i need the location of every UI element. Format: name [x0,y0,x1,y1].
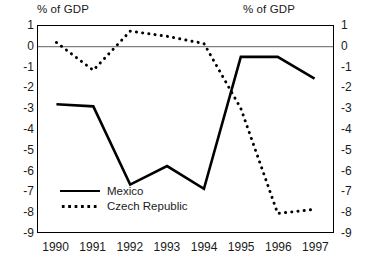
y-tick-label-right: -1 [341,61,365,73]
right-axis-unit-label: % of GDP [243,3,295,15]
y-tick-label-right: -3 [341,102,365,114]
x-tick-label: 1993 [147,240,187,254]
y-tick-label-left: -2 [10,81,34,93]
y-tick-label-right: -2 [341,81,365,93]
y-tick-label-left: -4 [10,123,34,135]
y-tick-label-right: 0 [341,40,365,52]
legend-label: Mexico [107,185,143,197]
x-tick-label: 1992 [110,240,150,254]
y-tick-label-left: 1 [10,19,34,31]
y-tick-label-left: -9 [10,227,34,239]
y-tick-label-left: -6 [10,165,34,177]
legend-item: Mexico [60,183,188,198]
series-line-mexico [56,57,314,189]
y-tick-label-left: -8 [10,206,34,218]
y-tick-label-right: -4 [341,123,365,135]
y-tick-label-right: -7 [341,185,365,197]
x-tick-label: 1997 [295,240,335,254]
x-tick-label: 1996 [258,240,298,254]
y-tick-label-right: 1 [341,19,365,31]
x-tick-label: 1995 [221,240,261,254]
left-axis-unit-label: % of GDP [37,3,89,15]
y-tick-label-right: -8 [341,206,365,218]
legend-item: Czech Republic [60,198,188,213]
legend-solid-line-icon [60,186,100,196]
y-tick-label-right: -9 [341,227,365,239]
y-tick-label-left: -5 [10,144,34,156]
y-tick-label-right: -5 [341,144,365,156]
x-tick-label: 1990 [36,240,76,254]
x-tick-label: 1994 [184,240,224,254]
y-tick-label-left: 0 [10,40,34,52]
y-tick-label-left: -7 [10,185,34,197]
chart-figure: % of GDP % of GDP 10-1-2-3-4-5-6-7-8-9 1… [0,0,375,266]
y-tick-label-left: -1 [10,61,34,73]
y-tick-label-left: -3 [10,102,34,114]
legend-dotted-line-icon [60,201,100,211]
x-tick-label: 1991 [73,240,113,254]
y-tick-label-right: -6 [341,165,365,177]
chart-legend: MexicoCzech Republic [60,183,188,213]
legend-label: Czech Republic [107,200,188,212]
